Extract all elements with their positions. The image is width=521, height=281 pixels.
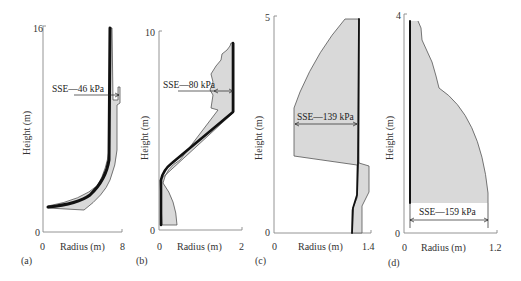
panel-d-ymin: 0 [395, 228, 400, 239]
panel-b-xmin: 0 [157, 241, 162, 252]
panel-b: 10 0 0 2 Radius (m) Height (m) (b) SSE—8… [136, 27, 244, 267]
panel-a-xmin: 0 [40, 241, 45, 252]
panel-c-ymin: 0 [265, 227, 270, 238]
panel-b-ymin: 0 [150, 225, 155, 236]
panel-a-xlabel: Radius (m) [60, 241, 105, 253]
panel-b-envelope [160, 43, 234, 225]
panel-d-envelope [410, 21, 488, 203]
panel-a-annotation: SSE—46 kPa [52, 84, 105, 94]
panel-c-ymax: 5 [265, 12, 270, 23]
panel-d-ymax: 4 [396, 10, 401, 21]
panel-d-xlabel: Radius (m) [421, 242, 466, 254]
panel-c-tag: (c) [255, 255, 266, 267]
panel-a-ylabel: Height (m) [21, 111, 33, 155]
panel-c-xlabel: Radius (m) [298, 241, 343, 253]
panel-c-xmin: 0 [272, 241, 277, 252]
panel-d-xmax: 1.2 [489, 242, 502, 253]
panel-a-ymax: 16 [33, 23, 43, 34]
panel-b-tag: (b) [136, 255, 148, 267]
panel-a: 16 0 0 8 Radius (m) Height (m) (a) SSE—4… [21, 23, 125, 267]
panel-c-annotation: SSE—139 kPa [297, 112, 355, 122]
panel-d-annotation: SSE—159 kPa [419, 207, 477, 217]
panel-a-ymin: 0 [35, 227, 40, 238]
panel-b-annotation: SSE—80 kPa [163, 80, 216, 90]
panel-c-xmax: 1.4 [362, 241, 375, 252]
panel-b-xlabel: Radius (m) [177, 241, 222, 253]
panel-d: 4 0 0 1.2 Radius (m) Height (m) (d) SSE—… [384, 10, 502, 269]
panel-a-xmax: 8 [120, 241, 125, 252]
panel-c-ylabel: Height (m) [253, 116, 265, 160]
panel-b-ymax: 10 [145, 27, 155, 38]
panel-a-tag: (a) [21, 255, 32, 267]
panel-b-xmax: 2 [239, 241, 244, 252]
panel-d-xmin: 0 [402, 242, 407, 253]
panel-d-ylabel: Height (m) [384, 116, 396, 160]
figure-canvas: 16 0 0 8 Radius (m) Height (m) (a) SSE—4… [0, 0, 521, 281]
panel-d-tag: (d) [388, 257, 400, 269]
panel-c: 5 0 0 1.4 Radius (m) Height (m) (c) SSE—… [253, 12, 375, 267]
panel-b-ylabel: Height (m) [139, 116, 151, 160]
panel-a-profile [48, 28, 110, 207]
